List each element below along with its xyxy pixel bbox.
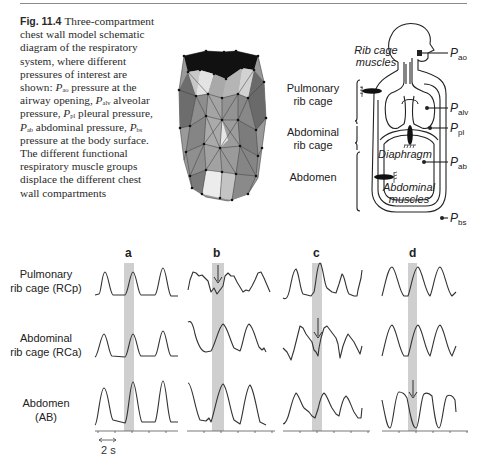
scale-bar-label: 2 s (101, 444, 116, 456)
waveform-plots (0, 0, 481, 471)
